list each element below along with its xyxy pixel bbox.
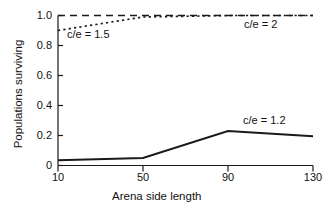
y-tick-label-0: 0	[26, 160, 52, 171]
y-tick-label-0-4: 0.4	[26, 100, 52, 111]
y-tick-label-0-6: 0.6	[26, 70, 52, 81]
y-axis-ticks	[58, 16, 63, 166]
x-tick-label-130: 130	[298, 172, 328, 183]
series-line-ce12	[58, 131, 313, 160]
x-axis-ticks	[58, 166, 313, 172]
y-tick-label-0-2: 0.2	[26, 130, 52, 141]
x-axis-title: Arena side length	[112, 190, 202, 202]
y-axis-title: Populations surviving	[12, 34, 24, 154]
annotation-ce12: c/e = 1.2	[243, 115, 286, 126]
x-tick-label-50: 50	[128, 172, 158, 183]
annotation-ce2: c/e = 2	[244, 19, 277, 30]
x-tick-label-90: 90	[213, 172, 243, 183]
y-tick-label-1-0: 1.0	[26, 10, 52, 21]
x-tick-label-10: 10	[43, 172, 73, 183]
annotation-ce15: c/e = 1.5	[67, 29, 110, 40]
y-tick-label-0-8: 0.8	[26, 40, 52, 51]
chart-figure: 0 0.2 0.4 0.6 0.8 1.0 10 50 90 130 Popul…	[0, 0, 333, 211]
